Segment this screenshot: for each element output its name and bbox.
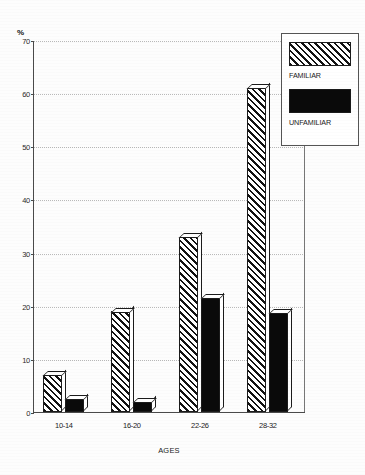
y-tick-mark-50 <box>31 147 35 148</box>
bar-familiar-22-26 <box>179 237 198 412</box>
y-tick-mark-40 <box>31 200 35 201</box>
legend-label-familiar: FAMILIAR <box>289 71 351 80</box>
bar-group-22-26 <box>179 237 220 412</box>
y-tick-mark-60 <box>31 94 35 95</box>
solid-swatch-icon <box>289 89 351 113</box>
bar-unfamiliar-16-20 <box>133 401 152 412</box>
y-tick-label-50: 50 <box>22 143 30 152</box>
y-tick-label-30: 30 <box>22 249 30 258</box>
y-tick-label-20: 20 <box>22 302 30 311</box>
x-tick-label-16-20: 16-20 <box>123 421 141 430</box>
legend-label-unfamiliar: UNFAMILIAR <box>289 118 351 127</box>
y-tick-mark-0 <box>31 413 35 414</box>
bar-group-16-20 <box>111 311 152 412</box>
chart-canvas: % 010203040506070 10-1416-2022-2628-32 A… <box>0 0 365 475</box>
bar-front-face <box>201 298 220 412</box>
y-tick-mark-30 <box>31 254 35 255</box>
bar-front-face <box>269 313 288 412</box>
plot-area: 010203040506070 10-1416-2022-2628-32 <box>33 41 305 413</box>
y-tick-label-40: 40 <box>22 196 30 205</box>
y-tick-mark-10 <box>31 360 35 361</box>
bar-unfamiliar-22-26 <box>201 298 220 412</box>
bar-familiar-28-32 <box>247 88 266 412</box>
x-tick-label-22-26: 22-26 <box>191 421 209 430</box>
bar-front-face <box>111 311 130 412</box>
y-tick-label-10: 10 <box>22 355 30 364</box>
y-tick-mark-20 <box>31 307 35 308</box>
bar-front-face <box>133 401 152 412</box>
x-axis-label: AGES <box>33 446 305 455</box>
gridline-70 <box>34 41 305 42</box>
y-tick-mark-70 <box>31 41 35 42</box>
bar-front-face <box>247 88 266 412</box>
y-tick-label-60: 60 <box>22 90 30 99</box>
x-tick-label-10-14: 10-14 <box>55 421 73 430</box>
bar-front-face <box>179 237 198 412</box>
bar-unfamiliar-28-32 <box>269 313 288 412</box>
bar-front-face <box>65 399 84 412</box>
y-tick-label-70: 70 <box>22 37 30 46</box>
hatch-swatch-icon <box>289 42 351 66</box>
bar-front-face <box>43 375 62 412</box>
bar-unfamiliar-10-14 <box>65 399 84 412</box>
legend-item-familiar: FAMILIAR <box>289 42 351 80</box>
x-tick-label-28-32: 28-32 <box>259 421 277 430</box>
legend-item-unfamiliar: UNFAMILIAR <box>289 89 351 127</box>
chart-legend: FAMILIAR UNFAMILIAR <box>281 33 359 146</box>
bar-familiar-10-14 <box>43 375 62 412</box>
y-tick-label-0: 0 <box>26 409 30 418</box>
bar-familiar-16-20 <box>111 311 130 412</box>
bar-group-10-14 <box>43 375 84 412</box>
